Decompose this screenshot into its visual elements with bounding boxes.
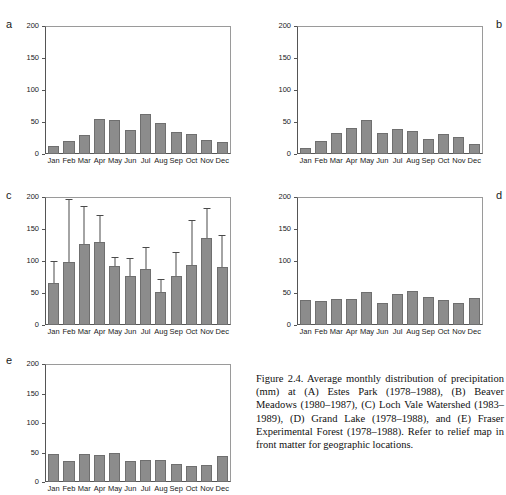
panel-c-bar-group [46, 197, 230, 325]
panel-d-label: d [496, 189, 502, 201]
panel-e-ytick-mark [42, 394, 45, 395]
bar-item [375, 197, 390, 325]
x-tick-label: Aug [153, 328, 168, 336]
x-tick-label: Dec [215, 328, 230, 336]
panel-e-ytick-label: 150 [11, 390, 39, 398]
bar [125, 130, 136, 154]
bar-item [92, 26, 107, 154]
panel-d-ytick-mark [294, 325, 297, 326]
bar [377, 133, 388, 154]
panel-d-ytick-mark [294, 261, 297, 262]
bar-item [107, 197, 122, 325]
x-tick-label: Dec [215, 485, 230, 493]
x-tick-label: Jul [138, 328, 153, 336]
x-tick-label: Oct [184, 328, 199, 336]
error-bar-cap [219, 235, 226, 236]
bar [109, 453, 120, 483]
panel-b: b 050100150200JanFebMarAprMayJunJulAugSe… [256, 12, 504, 175]
bar-item [107, 26, 122, 154]
bar [48, 146, 59, 154]
x-tick-label: Apr [344, 328, 359, 336]
error-bar [130, 259, 131, 276]
bar [109, 266, 120, 325]
x-tick-label: Jan [298, 328, 313, 336]
bar-item [329, 197, 344, 325]
panel-a-ytick-label: 0 [11, 150, 39, 158]
x-tick-label: Aug [153, 485, 168, 493]
error-bar-cap [127, 258, 134, 259]
x-tick-label: Jun [375, 328, 390, 336]
bar-item [199, 197, 214, 325]
error-bar [191, 221, 192, 265]
bar-item [313, 26, 328, 154]
panel-a-ytick-mark [42, 58, 45, 59]
bar-item [375, 26, 390, 154]
bar-item [467, 197, 482, 325]
bar-item [405, 26, 420, 154]
bar-item [298, 197, 313, 325]
error-bar-cap [142, 247, 149, 248]
bar [423, 139, 434, 154]
panel-c-ytick-mark [42, 261, 45, 262]
panel-b-ytick-label: 100 [263, 86, 291, 94]
bar [79, 244, 90, 325]
bar [361, 292, 372, 325]
panel-d-ytick-label: 150 [263, 225, 291, 233]
bar-item [184, 197, 199, 325]
bar [140, 460, 151, 482]
x-tick-label: Dec [467, 328, 482, 336]
panel-a: a 050100150200JanFebMarAprMayJunJulAugSe… [4, 12, 252, 175]
bar-item [77, 364, 92, 482]
bar-item [123, 26, 138, 154]
bar [155, 460, 166, 482]
figure-page: a 050100150200JanFebMarAprMayJunJulAugSe… [0, 0, 506, 495]
panel-b-label: b [496, 18, 502, 30]
bar-item [138, 364, 153, 482]
x-tick-label: May [359, 157, 374, 165]
x-tick-label: Sep [421, 328, 436, 336]
x-tick-label: Oct [436, 328, 451, 336]
x-tick-label: Jul [138, 485, 153, 493]
panel-d-ytick-label: 200 [263, 193, 291, 201]
bar [125, 461, 136, 482]
bar [63, 141, 74, 154]
error-bar [176, 253, 177, 276]
panel-c-ytick-label: 200 [11, 193, 39, 201]
panel-b-ytick-label: 200 [263, 22, 291, 30]
figure-caption: Figure 2.4. Average monthly distribution… [256, 372, 504, 451]
x-tick-label: Jan [46, 328, 61, 336]
panel-e-x-axis-labels: JanFebMarAprMayJunJulAugSepOctNovDec [46, 485, 230, 493]
panel-a-x-axis-labels: JanFebMarAprMayJunJulAugSepOctNovDec [46, 157, 230, 165]
bar-item [390, 197, 405, 325]
bar [155, 123, 166, 154]
panel-d-ytick-mark [294, 229, 297, 230]
panel-d-x-axis-labels: JanFebMarAprMayJunJulAugSepOctNovDec [298, 328, 482, 336]
error-bar-cap [50, 261, 57, 262]
bar-item [467, 26, 482, 154]
x-tick-label: Jun [123, 485, 138, 493]
bar [186, 134, 197, 154]
x-tick-label: Jul [390, 328, 405, 336]
bar [63, 262, 74, 325]
x-tick-label: Oct [184, 485, 199, 493]
x-tick-label: Apr [92, 157, 107, 165]
bar [186, 265, 197, 325]
bar-item [436, 26, 451, 154]
bar [300, 300, 311, 325]
bar [79, 135, 90, 154]
bar [125, 276, 136, 325]
panel-e-ytick-mark [42, 364, 45, 365]
bar [186, 466, 197, 482]
x-tick-label: Feb [61, 328, 76, 336]
panel-d-ytick-mark [294, 197, 297, 198]
x-tick-label: Apr [344, 157, 359, 165]
x-tick-label: Jan [46, 157, 61, 165]
x-tick-label: Nov [199, 485, 214, 493]
panel-b-ytick-label: 150 [263, 54, 291, 62]
error-bar-cap [81, 206, 88, 207]
bar [171, 132, 182, 154]
x-tick-label: May [107, 328, 122, 336]
bar [140, 114, 151, 154]
bar [217, 267, 228, 325]
x-tick-label: Nov [199, 328, 214, 336]
